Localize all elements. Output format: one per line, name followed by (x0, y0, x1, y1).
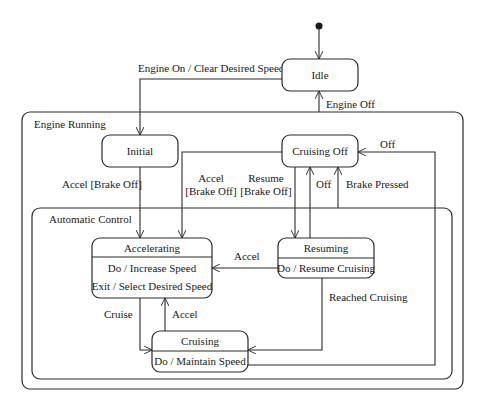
state-initial-name: Initial (127, 145, 153, 157)
label-accel-brake-off-initial: Accel [Brake Off] (62, 178, 142, 190)
label-cruise: Cruise (104, 308, 133, 320)
region-automatic-control-label: Automatic Control (49, 213, 132, 225)
state-idle: Idle (282, 59, 358, 91)
state-initial: Initial (102, 135, 178, 167)
state-cruising-off-name: Cruising Off (292, 145, 348, 157)
state-cruising-name: Cruising (181, 335, 219, 347)
state-resuming: Resuming Do / Resume Cruising (277, 238, 376, 278)
transition-reached-cruising (248, 278, 322, 350)
label-accel-line1: Accel (198, 172, 224, 184)
state-accelerating: Accelerating Do / Increase Speed Exit / … (92, 238, 213, 298)
state-resuming-name: Resuming (304, 242, 349, 254)
label-engine-on: Engine On / Clear Desired Speed (138, 62, 285, 74)
label-resume-line1: Resume (248, 172, 284, 184)
transition-idle-to-initial (140, 79, 282, 135)
region-engine-running-label: Engine Running (34, 118, 106, 130)
label-accel-cruising: Accel (172, 308, 198, 320)
transition-cruise (140, 298, 152, 350)
label-off-cruising: Off (380, 138, 395, 150)
state-accelerating-name: Accelerating (124, 242, 181, 254)
state-accelerating-activity-do: Do / Increase Speed (108, 262, 197, 274)
state-cruising-off: Cruising Off (282, 135, 358, 167)
state-resuming-activity-do: Do / Resume Cruising (277, 262, 376, 274)
label-accel-resuming: Accel (234, 250, 260, 262)
label-reached-cruising: Reached Cruising (329, 291, 408, 303)
state-idle-name: Idle (311, 69, 328, 81)
label-engine-off: Engine Off (326, 98, 375, 110)
state-cruising-activity-do: Do / Maintain Speed (154, 355, 246, 367)
label-brake-pressed: Brake Pressed (346, 178, 409, 190)
state-accelerating-activity-exit: Exit / Select Desired Speed (92, 280, 213, 292)
state-cruising: Cruising Do / Maintain Speed (152, 331, 248, 372)
label-off-resuming: Off (316, 178, 331, 190)
label-resume-line2: [Brake Off] (240, 185, 291, 197)
state-machine-diagram: Engine Running Automatic Control Engine … (0, 0, 482, 405)
label-accel-line2: [Brake Off] (185, 185, 236, 197)
initial-pseudostate-icon (316, 23, 323, 30)
